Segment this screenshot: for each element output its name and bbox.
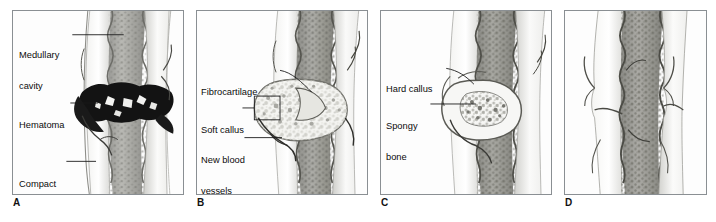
panel-a-hematoma-formation: Medullary cavity Hematoma Compact bone — [12, 10, 184, 195]
label-new-blood-vessels-line2: vessels — [201, 186, 245, 195]
label-spongy-bone: Spongy bone — [386, 100, 418, 183]
label-medullary-cavity-line2: cavity — [19, 81, 59, 91]
label-spongy-bone-line2: bone — [386, 152, 418, 162]
panel-d-artwork — [565, 11, 706, 194]
label-hematoma: Hematoma — [19, 99, 64, 151]
panel-letter-b: B — [197, 197, 204, 208]
label-compact-bone: Compact bone — [19, 158, 56, 195]
figure-caption-cutoff — [14, 214, 704, 222]
panel-letter-d: D — [565, 197, 572, 208]
label-hematoma-line1: Hematoma — [19, 120, 64, 130]
bone-fracture-repair-figure: Medullary cavity Hematoma Compact bone — [0, 0, 716, 222]
label-fibrocartilage-line1: Fibrocartilage — [201, 87, 257, 97]
panel-letter-c: C — [381, 197, 388, 208]
panel-c-hard-callus-formation: Hard callus Spongy bone — [380, 10, 552, 195]
panel-d-bone-remodeling — [564, 10, 707, 195]
panel-letter-a: A — [13, 197, 20, 208]
label-new-blood-vessels: New blood vessels — [201, 134, 245, 195]
label-medullary-cavity-line1: Medullary — [19, 50, 59, 60]
label-new-blood-vessels-line1: New blood — [201, 155, 245, 165]
label-compact-bone-line1: Compact — [19, 179, 56, 189]
label-spongy-bone-line1: Spongy — [386, 121, 418, 131]
panel-b-soft-callus-formation: Fibrocartilage Soft callus New blood ves… — [196, 10, 368, 195]
label-hard-callus-line1: Hard callus — [386, 84, 433, 94]
